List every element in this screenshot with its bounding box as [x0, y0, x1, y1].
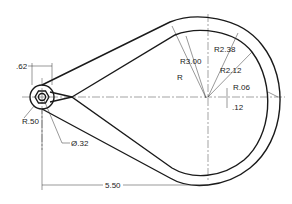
dim-550-label: 5.50: [105, 181, 121, 190]
r300-label: R3.00: [180, 57, 202, 66]
r-label: R: [177, 73, 183, 82]
r50-label: R.50: [22, 117, 39, 126]
r06-leader: [268, 92, 278, 97]
dim-12-label: .12: [232, 103, 244, 112]
r238-label: R2.38: [214, 45, 236, 54]
technical-drawing: .62 5.50 R.50 Ø.32 R3.00 R R2.38 R2.12 R…: [0, 0, 292, 204]
dia32-label: Ø.32: [71, 139, 89, 148]
r06-label: R.06: [233, 83, 250, 92]
drawing-canvas: .62 5.50 R.50 Ø.32 R3.00 R R2.38 R2.12 R…: [0, 0, 292, 204]
dim-62-label: .62: [16, 62, 28, 71]
r300-leader: [186, 36, 206, 98]
r212-label: R2.12: [220, 66, 242, 75]
